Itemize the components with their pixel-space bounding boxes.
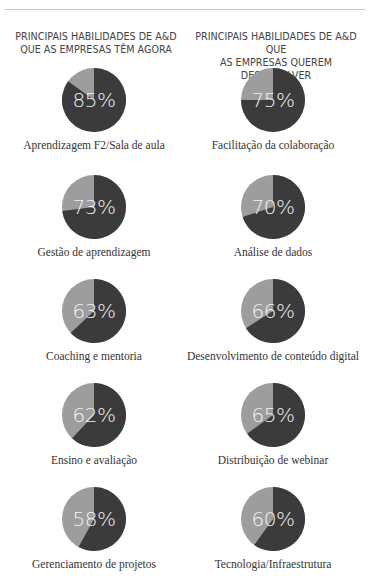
- pie-item-right-5: 60%Tecnologia/Infraestrutura: [183, 487, 363, 581]
- left-column-title: PRINCIPAIS HABILIDADES DE A&D QUE AS EMP…: [6, 30, 186, 56]
- percent-value: 75%: [241, 87, 305, 113]
- left-title-line1: PRINCIPAIS HABILIDADES DE A&D: [6, 30, 186, 43]
- percent-value: 66%: [241, 298, 305, 324]
- pie-item-left-2: 73%Gestão de aprendizagem: [4, 175, 184, 279]
- skill-label: Distribuição de webinar: [183, 454, 363, 466]
- skill-label: Ensino e avaliação: [4, 454, 184, 466]
- percent-value: 63%: [62, 298, 126, 324]
- skill-label: Gestão de aprendizagem: [4, 246, 184, 258]
- right-title-line1: PRINCIPAIS HABILIDADES DE A&D QUE: [186, 30, 366, 56]
- skill-label: Desenvolvimento de conteúdo digital: [183, 350, 363, 362]
- skill-label: Coaching e mentoria: [4, 350, 184, 362]
- skill-label: Facilitação da colaboração: [183, 139, 363, 151]
- percent-value: 65%: [241, 402, 305, 428]
- percent-value: 58%: [62, 506, 126, 532]
- top-divider: [5, 9, 365, 10]
- skill-label: Aprendizagem F2/Sala de aula: [4, 139, 184, 151]
- percent-value: 62%: [62, 402, 126, 428]
- percent-value: 60%: [241, 506, 305, 532]
- pie-item-left-1: 85%Aprendizagem F2/Sala de aula: [4, 68, 184, 172]
- pie-item-right-4: 65%Distribuição de webinar: [183, 383, 363, 487]
- percent-value: 73%: [62, 194, 126, 220]
- percent-value: 70%: [241, 194, 305, 220]
- pie-item-right-2: 70%Análise de dados: [183, 175, 363, 279]
- pie-item-left-3: 63%Coaching e mentoria: [4, 279, 184, 383]
- pie-item-right-3: 66%Desenvolvimento de conteúdo digital: [183, 279, 363, 383]
- pie-item-right-1: 75%Facilitação da colaboração: [183, 68, 363, 172]
- pie-item-left-4: 62%Ensino e avaliação: [4, 383, 184, 487]
- skill-label: Gerenciamento de projetos: [4, 558, 184, 570]
- pie-item-left-5: 58%Gerenciamento de projetos: [4, 487, 184, 581]
- percent-value: 85%: [62, 87, 126, 113]
- skill-label: Tecnologia/Infraestrutura: [183, 558, 363, 570]
- left-title-line2: QUE AS EMPRESAS TÊM AGORA: [6, 43, 186, 56]
- skill-label: Análise de dados: [183, 246, 363, 258]
